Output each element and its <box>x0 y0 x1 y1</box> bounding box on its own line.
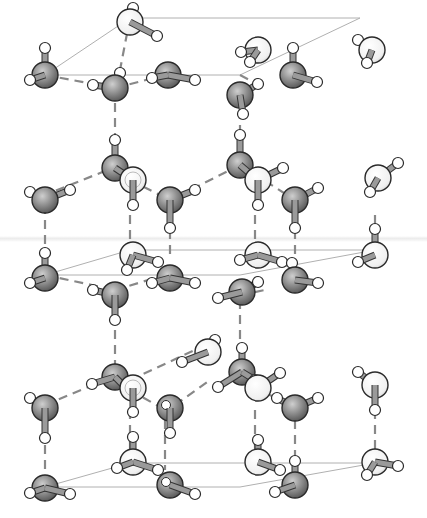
hydrogen-atom <box>65 489 76 500</box>
hydrogen-atom <box>290 456 301 467</box>
hydrogen-atom <box>162 478 171 487</box>
hydrogen-atom <box>110 315 121 326</box>
hydrogen-atom <box>190 185 201 196</box>
hydrogen-atom <box>253 200 264 211</box>
hydrogen-atom <box>25 75 36 86</box>
hydrogen-atom <box>190 75 201 86</box>
hydrogen-atom <box>312 77 323 88</box>
water-molecule <box>280 43 323 89</box>
hydrogen-atom <box>153 465 164 476</box>
hydrogen-atom <box>236 47 247 58</box>
hydrogen-atom <box>235 130 246 141</box>
oxygen-atom-light <box>245 375 271 401</box>
hydrogen-atom <box>365 187 376 198</box>
hydrogen-atom <box>253 79 264 90</box>
water-molecules <box>25 3 404 502</box>
water-molecule <box>177 335 222 368</box>
ice-crystal-diagram <box>0 0 427 518</box>
cell-edge <box>45 250 130 275</box>
hydrogen-atom <box>235 255 246 266</box>
hydrogen-atom <box>362 470 373 481</box>
molecule-lattice <box>0 0 427 518</box>
hydrogen-atom <box>275 465 286 476</box>
water-molecule <box>235 242 288 268</box>
hydrogen-atom <box>272 393 283 404</box>
hydrogen-atom <box>25 278 36 289</box>
water-molecule <box>25 475 76 501</box>
hydrogen-atom <box>238 109 249 120</box>
oxygen-atom-dark <box>102 75 128 101</box>
hydrogen-atom <box>165 223 176 234</box>
hydrogen-atom <box>253 435 264 446</box>
water-molecule <box>88 68 129 102</box>
oxygen-atom-dark <box>282 395 308 421</box>
hydrogen-atom <box>147 278 158 289</box>
hydrogen-atom <box>87 379 98 390</box>
hydrogen-atom <box>128 432 139 443</box>
hydrogen-atom <box>237 343 248 354</box>
water-molecule <box>117 3 163 42</box>
hydrogen-atom <box>65 185 76 196</box>
hydrogen-atom <box>277 257 288 268</box>
hydrogen-atom <box>353 257 364 268</box>
hydrogen-atom <box>112 463 123 474</box>
hydrogen-atom <box>393 461 404 472</box>
water-molecule <box>227 79 264 120</box>
hydrogen-atom <box>40 43 51 54</box>
hydrogen-atom <box>152 31 163 42</box>
hydrogen-atom <box>165 428 176 439</box>
hydrogen-atom <box>353 367 364 378</box>
hydrogen-atom <box>128 200 139 211</box>
hydrogen-atom <box>313 278 324 289</box>
hydrogen-atom <box>40 433 51 444</box>
water-molecule <box>282 183 324 234</box>
oxygen-atom-dark <box>32 187 58 213</box>
hydrogen-atom <box>275 368 286 379</box>
hydrogen-atom <box>147 73 158 84</box>
water-molecule <box>25 43 59 89</box>
hydrogen-atom <box>313 183 324 194</box>
hydrogen-atom <box>190 489 201 500</box>
water-molecule <box>157 395 183 439</box>
hydrogen-atom <box>290 223 301 234</box>
water-molecule <box>353 35 386 69</box>
water-molecule <box>282 258 324 294</box>
water-molecule <box>353 367 389 416</box>
water-molecule <box>25 393 59 444</box>
water-molecule <box>353 224 389 269</box>
water-molecule <box>120 242 164 276</box>
hydrogen-atom <box>278 163 289 174</box>
water-molecule <box>157 472 201 500</box>
hydrogen-atom <box>288 43 299 54</box>
water-molecule <box>25 185 76 214</box>
hydrogen-atom <box>362 58 373 69</box>
hydrogen-atom <box>153 257 164 268</box>
hydrogen-atom <box>88 285 99 296</box>
hydrogen-atom <box>213 382 224 393</box>
hydrogen-atom <box>25 488 36 499</box>
water-molecule <box>157 185 201 234</box>
hydrogen-atom <box>393 158 404 169</box>
water-molecule <box>147 265 201 291</box>
water-molecule <box>270 456 309 499</box>
water-molecule <box>120 167 146 211</box>
hydrogen-atom <box>122 265 133 276</box>
hydrogen-atom <box>213 293 224 304</box>
water-molecule <box>88 282 129 326</box>
hydrogen-atom <box>88 80 99 91</box>
hydrogen-atom <box>190 278 201 289</box>
water-molecule <box>362 449 404 481</box>
hydrogen-atom <box>110 135 121 146</box>
hydrogen-atom <box>177 357 188 368</box>
water-molecule <box>147 62 201 88</box>
water-molecule <box>365 158 404 198</box>
water-molecule <box>112 432 164 476</box>
water-molecule <box>25 248 59 292</box>
water-molecule <box>120 375 146 418</box>
water-molecule <box>245 435 286 476</box>
hydrogen-atom <box>128 407 139 418</box>
hydrogen-atom <box>370 224 381 235</box>
hydrogen-atom <box>370 405 381 416</box>
hydrogen-atom <box>313 393 324 404</box>
water-molecule <box>272 393 324 422</box>
